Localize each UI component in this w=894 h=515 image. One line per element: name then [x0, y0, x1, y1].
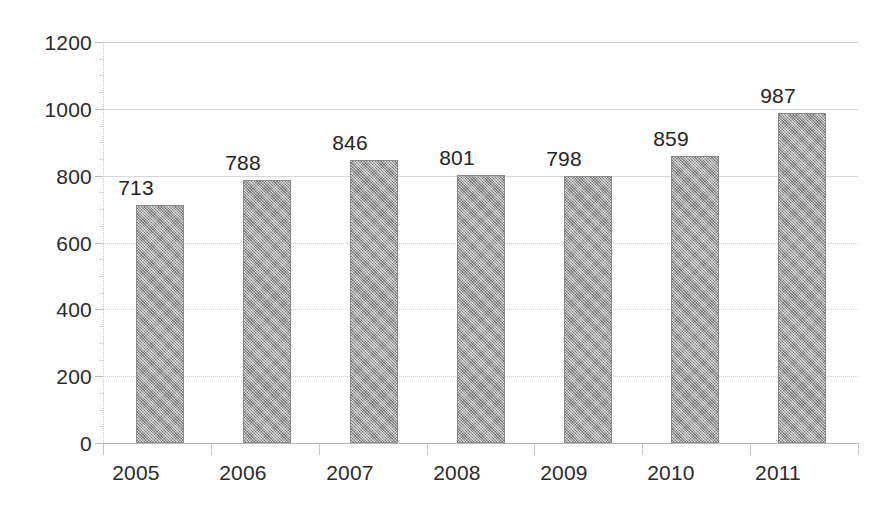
x-tick [642, 443, 643, 455]
bar-2008[interactable] [457, 175, 505, 443]
bar-2005[interactable] [136, 205, 184, 443]
y-tick-label-1200: 1200 [6, 32, 92, 53]
bar-2011[interactable] [778, 113, 826, 443]
x-tick [319, 443, 320, 455]
x-tick [427, 443, 428, 455]
x-tick [534, 443, 535, 455]
y-axis-labels: 0 200 400 600 800 1000 1200 [0, 42, 92, 443]
gridline-1000 [103, 109, 858, 110]
bar-2007[interactable] [350, 160, 398, 443]
bar-value-2006: 788 [198, 152, 288, 173]
x-tick-label-2007: 2007 [296, 462, 404, 483]
bar-value-2011: 987 [733, 85, 823, 106]
x-tick-label-2010: 2010 [617, 462, 725, 483]
x-tick-label-2008: 2008 [403, 462, 511, 483]
bar-2010[interactable] [671, 156, 719, 443]
bar-value-2009: 798 [519, 148, 609, 169]
gridline-1200 [103, 42, 858, 43]
x-tick-label-2006: 2006 [189, 462, 297, 483]
x-tick-label-2009: 2009 [510, 462, 618, 483]
bar-2009[interactable] [564, 176, 612, 443]
x-tick [103, 443, 104, 455]
y-tick-label-200: 200 [6, 366, 92, 387]
y-tick-label-1000: 1000 [6, 98, 92, 119]
bar-value-2007: 846 [305, 132, 395, 153]
bar-value-2008: 801 [412, 147, 502, 168]
bar-2006[interactable] [243, 180, 291, 443]
x-tick-label-2005: 2005 [82, 462, 190, 483]
bar-chart: 0 200 400 600 800 1000 1200 [0, 0, 894, 515]
y-tick-label-800: 800 [6, 165, 92, 186]
x-tick [858, 443, 859, 455]
y-tick-label-600: 600 [6, 232, 92, 253]
x-tick-label-2011: 2011 [724, 462, 832, 483]
y-tick-label-400: 400 [6, 299, 92, 320]
x-tick [750, 443, 751, 455]
x-axis-line [103, 443, 858, 444]
bar-value-2005: 713 [91, 177, 181, 198]
x-tick [211, 443, 212, 455]
bar-value-2010: 859 [626, 128, 716, 149]
y-tick-label-0: 0 [6, 433, 92, 454]
